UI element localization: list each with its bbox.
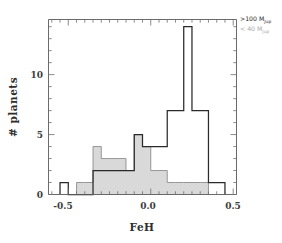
plot-canvas: -0.5 0.0 0.5 0 5 10 FeH # planets >100 M… — [0, 0, 282, 243]
legend-entry-low-mass: < 40 MJup — [240, 25, 269, 34]
y-axis-title: # planets — [7, 77, 19, 137]
xtick-label-0: -0.5 — [53, 201, 72, 211]
xtick-label-2: 0.5 — [225, 201, 241, 211]
legend-high-mass-subscript: Jup — [263, 19, 271, 24]
legend: >100 MJup < 40 MJup — [240, 15, 271, 34]
legend-high-mass-label: >100 M — [240, 15, 264, 22]
ytick-label-0: 0 — [37, 190, 43, 200]
xtick-label-1: 0.0 — [140, 201, 156, 211]
legend-entry-high-mass: >100 MJup — [240, 15, 271, 24]
ytick-label-1: 5 — [37, 130, 43, 140]
histogram-figure: -0.5 0.0 0.5 0 5 10 FeH # planets >100 M… — [0, 0, 282, 243]
ytick-label-2: 10 — [30, 70, 43, 80]
legend-low-mass-subscript: Jup — [261, 29, 269, 34]
legend-low-mass-label: < 40 M — [240, 25, 262, 32]
x-axis-title: FeH — [130, 221, 155, 233]
